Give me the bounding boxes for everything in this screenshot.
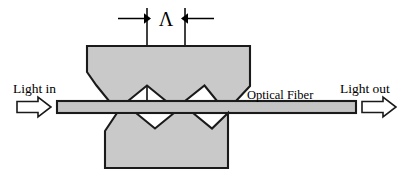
diagram-canvas: Λ Light in Optical Fiber Light out — [0, 0, 413, 178]
grating-diagram-figure: Λ Light in Optical Fiber Light out — [0, 0, 413, 178]
optical-fiber-bar — [57, 101, 356, 113]
light-out-label: Light out — [340, 81, 390, 96]
light-in-arrow-icon — [17, 97, 51, 117]
light-out-arrow-icon — [362, 97, 396, 117]
lower-grating-block — [105, 113, 228, 168]
upper-grating-block — [87, 46, 250, 101]
optical-fiber-label: Optical Fiber — [247, 88, 314, 102]
period-symbol-label: Λ — [159, 8, 174, 30]
light-in-label: Light in — [13, 81, 56, 96]
period-dimension-group: Λ — [118, 8, 214, 30]
